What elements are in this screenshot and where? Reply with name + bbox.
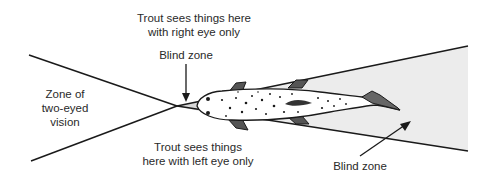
right-eye xyxy=(206,111,210,115)
two-eyed-vision-label: Zone of two-eyed vision xyxy=(30,87,100,129)
left-eye-label-line2: here with left eye only xyxy=(128,154,268,168)
front-blind-zone-arrow xyxy=(182,64,190,102)
right-eye-label-line1: Trout sees things here xyxy=(128,11,260,25)
left-eye-label-line1: Trout sees things xyxy=(128,140,268,154)
left-eye xyxy=(206,97,210,101)
rear-blind-zone-label: Blind zone xyxy=(322,159,398,173)
right-eye-label-line2: with right eye only xyxy=(128,25,260,39)
left-eye-only-label: Trout sees things here with left eye onl… xyxy=(128,140,268,168)
two-eyed-label-line1: Zone of xyxy=(30,87,100,101)
right-eye-only-label: Trout sees things here with right eye on… xyxy=(128,11,260,39)
rear-blind-zone-text: Blind zone xyxy=(322,159,398,173)
front-blind-zone-label: Blind zone xyxy=(146,48,226,62)
two-eyed-label-line3: vision xyxy=(30,115,100,129)
front-blind-zone-text: Blind zone xyxy=(146,48,226,62)
two-eyed-label-line2: two-eyed xyxy=(30,101,100,115)
